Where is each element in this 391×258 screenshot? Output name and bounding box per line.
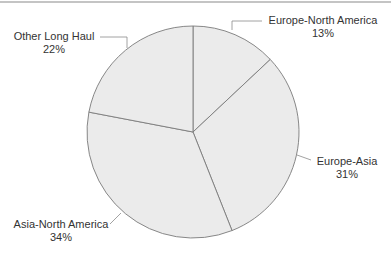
label-name: Europe-Asia — [312, 155, 382, 168]
leader-asia-north-america — [110, 213, 121, 224]
label-europe-asia: Europe-Asia 31% — [312, 155, 382, 181]
label-name: Other Long Haul — [10, 30, 98, 43]
pie-slices — [87, 26, 299, 238]
label-name: Europe-North America — [266, 14, 380, 27]
leader-europe-north-america — [232, 21, 262, 30]
label-other-long-haul: Other Long Haul 22% — [10, 30, 98, 56]
label-percent: 31% — [312, 168, 382, 181]
label-europe-north-america: Europe-North America 13% — [266, 14, 380, 40]
label-asia-north-america: Asia-North America 34% — [12, 218, 110, 244]
label-percent: 13% — [266, 27, 380, 40]
label-name: Asia-North America — [12, 218, 110, 231]
leader-europe-asia — [297, 155, 311, 160]
label-percent: 34% — [12, 231, 110, 244]
label-percent: 22% — [10, 43, 98, 56]
leader-other-long-haul — [100, 37, 127, 48]
